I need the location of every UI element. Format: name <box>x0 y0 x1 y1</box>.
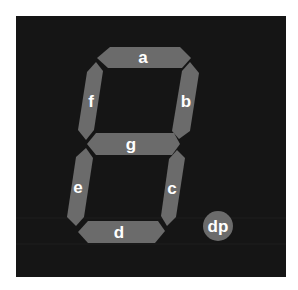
segment-c-label: c <box>167 179 176 198</box>
seven-segment-diagram: a b c d e f g dp <box>0 0 298 290</box>
segment-a-label: a <box>138 48 148 67</box>
segment-d-label: d <box>114 223 124 242</box>
segment-f-label: f <box>88 92 94 111</box>
decimal-point-label: dp <box>208 217 229 236</box>
segment-g-label: g <box>126 135 136 154</box>
segment-e-label: e <box>73 178 82 197</box>
segment-b-label: b <box>181 92 191 111</box>
